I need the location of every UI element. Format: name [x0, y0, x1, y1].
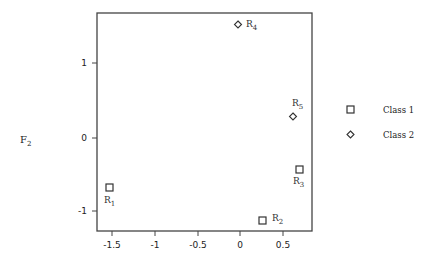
y-axis-label: F2 [20, 134, 31, 148]
legend-label-class-1: Class 1 [383, 105, 414, 115]
y-axis: 1 0 -1 [78, 58, 97, 216]
scatter-chart: 1 0 -1 -1.5 -1 -0.5 0 0.5 F2 R1 R2 R3 R4… [0, 0, 437, 276]
x-axis: -1.5 -1 -0.5 0 0.5 [103, 231, 290, 250]
point-label-r4: R4 [246, 19, 258, 32]
x-tick-label: 0 [237, 240, 243, 250]
square-marker-icon [106, 184, 113, 191]
point-label-r1: R1 [104, 195, 115, 208]
plot-frame [97, 13, 312, 231]
x-tick-label: -0.5 [189, 240, 207, 250]
x-tick-label: 0.5 [276, 240, 290, 250]
legend: Class 1 Class 2 [347, 105, 414, 140]
legend-square-icon [347, 106, 354, 113]
series-class-2: R4 R5 [235, 19, 304, 120]
series-class-1: R1 R2 R3 [104, 166, 304, 226]
x-tick-label: -1.5 [103, 240, 121, 250]
point-label-r3: R3 [293, 176, 304, 189]
y-tick-label: 1 [81, 58, 87, 68]
point-label-r5: R5 [292, 98, 303, 111]
legend-diamond-icon [347, 131, 354, 138]
x-tick-label: -1 [151, 240, 160, 250]
y-tick-label: 0 [81, 133, 87, 143]
svg-text:F2: F2 [20, 134, 31, 148]
y-tick-label: -1 [78, 206, 87, 216]
square-marker-icon [296, 166, 303, 173]
point-label-r2: R2 [272, 213, 283, 226]
square-marker-icon [259, 217, 266, 224]
diamond-marker-icon [235, 21, 242, 28]
diamond-marker-icon [290, 113, 297, 120]
legend-label-class-2: Class 2 [383, 130, 414, 140]
